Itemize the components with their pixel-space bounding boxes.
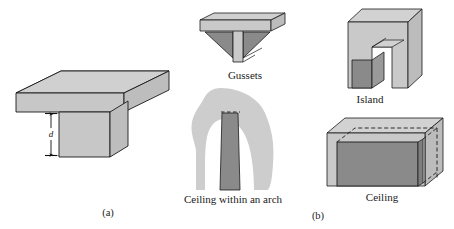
item-gussets: Gussets xyxy=(200,13,285,81)
item-island: Island xyxy=(348,9,422,105)
gusset-right-dark xyxy=(243,32,270,58)
item-ceiling-within-arch: Ceiling within an arch xyxy=(184,88,283,205)
panel-a-sublabel: (a) xyxy=(102,207,114,219)
label-island: Island xyxy=(357,93,384,105)
island-column-dark-front xyxy=(352,60,372,88)
figure-svg: d (a) Gussets xyxy=(0,0,454,229)
label-ceiling-within-arch: Ceiling within an arch xyxy=(184,193,283,205)
island-column-dark-side xyxy=(372,52,384,88)
tbeam-flange-front xyxy=(16,93,124,112)
island-right-face xyxy=(408,9,422,88)
arch-dark-band xyxy=(220,113,240,190)
gussets-flange-front xyxy=(200,20,271,31)
label-ceiling: Ceiling xyxy=(366,191,399,203)
item-ceiling: Ceiling xyxy=(327,118,443,203)
panel-a-tbeam: d (a) xyxy=(16,71,169,219)
gussets-stem xyxy=(233,30,243,62)
label-gussets: Gussets xyxy=(228,69,262,81)
gusset-left-dark xyxy=(205,32,233,58)
figure-container: d (a) Gussets xyxy=(0,0,454,229)
ceiling-top-face xyxy=(327,118,443,133)
ceiling-dark-slab-edge xyxy=(418,139,423,186)
dimension-label-d: d xyxy=(49,129,54,139)
panel-b-sublabel: (b) xyxy=(312,210,325,222)
ceiling-dark-slab xyxy=(337,142,418,186)
